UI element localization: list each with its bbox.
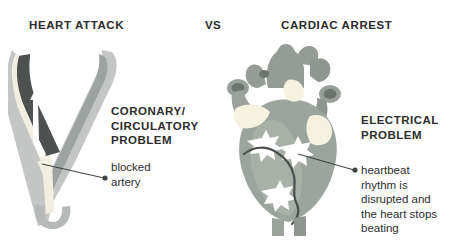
heading-heart-attack: HEART ATTACK	[29, 19, 124, 31]
pulmonary-lumen-right	[324, 89, 337, 99]
vessel-lumen-small	[259, 70, 269, 78]
heartbeat-leader-dot	[352, 167, 357, 172]
heart-illustration	[214, 42, 364, 241]
blocked-artery-illustration	[8, 44, 128, 238]
heading-cardiac-arrest: CARDIAC ARREST	[281, 19, 392, 31]
label-coronary-circulatory-problem: CORONARY/ CIRCULATORY PROBLEM	[111, 104, 199, 148]
infographic-canvas: HEART ATTACK VS CARDIAC ARREST	[0, 0, 457, 242]
label-heartbeat-rhythm: heartbeat rhythm is disrupted and the he…	[361, 163, 437, 236]
apex-vessel-right	[294, 216, 306, 236]
vessel-branch-center	[276, 44, 296, 60]
heading-versus: VS	[205, 19, 221, 31]
label-blocked-artery: blocked artery	[111, 160, 151, 189]
blocked-artery-leader-dot	[102, 175, 107, 180]
apex-vessel-left	[272, 218, 284, 236]
label-electrical-problem: ELECTRICAL PROBLEM	[361, 113, 439, 142]
vessel-branch-far-right	[310, 59, 330, 82]
